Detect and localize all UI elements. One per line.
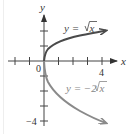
y-tick-label-neg4: −4 xyxy=(26,116,37,127)
x-tick-label-4: 4 xyxy=(99,67,104,78)
svg-text:y = −2: y = −2 xyxy=(65,82,97,94)
x-axis-label: x xyxy=(120,55,126,67)
chart-svg: y x 0 4 −4 y = x y = −2 x xyxy=(0,0,131,134)
curve-sqrt-x xyxy=(44,31,106,62)
y-axis-label: y xyxy=(39,1,45,13)
svg-text:x: x xyxy=(89,22,95,34)
chart-frame: y x 0 4 −4 y = x y = −2 x xyxy=(0,0,131,134)
curve2-label: y = −2 x xyxy=(65,82,107,95)
curve1-label: y = x xyxy=(63,22,97,35)
svg-text:x: x xyxy=(99,82,105,94)
svg-text:y =: y = xyxy=(63,22,79,34)
origin-label: 0 xyxy=(36,63,41,74)
